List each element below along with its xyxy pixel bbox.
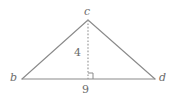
base-measurement-label: 9 [82,84,89,95]
triangle-side-cd [88,20,155,79]
geometry-figure: b c d 4 9 [0,0,175,100]
right-angle-marker-icon [88,73,93,79]
height-measurement-label: 4 [74,47,81,58]
vertex-label-d: d [159,72,166,83]
vertex-label-b: b [10,72,17,83]
vertex-label-c: c [84,6,90,17]
